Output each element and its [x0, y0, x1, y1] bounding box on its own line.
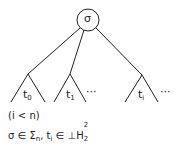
- subtree-t1-ellipsis: ···: [86, 86, 97, 97]
- h-sup: 2: [84, 121, 88, 129]
- typing-judgement: σ ∈ Σn, ti ∈ ⊥H22: [8, 130, 88, 143]
- t-sep: , t: [40, 130, 50, 141]
- t1-index: 1: [70, 94, 74, 102]
- subtree-ti-ellipsis: ···: [160, 86, 171, 97]
- subtree-t1-label: t1: [66, 89, 75, 102]
- ti-index: i: [142, 94, 144, 102]
- edge-root-t1: [70, 30, 84, 74]
- index-condition: (i < n): [8, 110, 40, 121]
- t0-index: 0: [27, 94, 31, 102]
- root-label: σ: [84, 13, 91, 24]
- in-bottom-h: ∈ ⊥H: [52, 130, 83, 141]
- h-sub: 2: [84, 135, 88, 143]
- edge-root-ti: [96, 28, 142, 75]
- sigma-in-sigma: σ ∈ Σ: [8, 130, 36, 141]
- subtree-ti-label: ti: [138, 89, 144, 102]
- subtree-t0-label: t0: [23, 89, 32, 102]
